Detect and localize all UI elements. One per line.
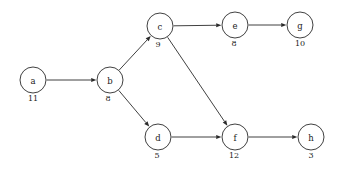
- node-label-a: a: [30, 76, 35, 86]
- graph-node-h[interactable]: h3: [298, 124, 324, 160]
- node-weight-f: 12: [229, 151, 239, 160]
- edge-c-e: [174, 23, 222, 27]
- node-label-b: b: [107, 76, 113, 86]
- edge-f-h: [249, 135, 298, 139]
- node-weight-g: 10: [295, 39, 305, 48]
- edge-c-f: [168, 37, 228, 125]
- node-weight-d: 5: [154, 151, 159, 160]
- edge-b-d: [119, 90, 149, 126]
- arrowhead-icon: [216, 23, 221, 27]
- graph-node-d[interactable]: d5: [145, 124, 171, 160]
- node-label-c: c: [158, 22, 163, 32]
- edge-d-f: [172, 135, 222, 139]
- node-label-h: h: [308, 133, 314, 143]
- edges-layer: [47, 23, 298, 139]
- node-label-e: e: [232, 21, 237, 31]
- nodes-layer: a11b8c9d5e8f12g10h3: [20, 12, 324, 160]
- node-weight-e: 8: [231, 39, 236, 48]
- arrowhead-icon: [91, 78, 96, 82]
- arrowhead-icon: [223, 120, 228, 125]
- edge-b-c: [119, 36, 151, 70]
- node-weight-c: 9: [155, 40, 160, 49]
- graph-node-e[interactable]: e8: [222, 12, 248, 48]
- graph-node-c[interactable]: c9: [147, 13, 173, 49]
- graph-node-b[interactable]: b8: [97, 67, 123, 103]
- edge-e-g: [249, 23, 287, 27]
- arrowhead-icon: [292, 135, 297, 139]
- graph-diagram: a11b8c9d5e8f12g10h3: [0, 0, 342, 173]
- node-label-d: d: [155, 133, 161, 143]
- graph-canvas: a11b8c9d5e8f12g10h3: [0, 0, 342, 173]
- node-weight-h: 3: [308, 151, 313, 160]
- graph-node-a[interactable]: a11: [20, 67, 46, 103]
- arrowhead-icon: [281, 23, 286, 27]
- arrowhead-icon: [216, 135, 221, 139]
- graph-node-g[interactable]: g10: [287, 12, 313, 48]
- graph-node-f[interactable]: f12: [222, 124, 248, 160]
- edge-a-b: [47, 78, 97, 82]
- node-label-g: g: [297, 21, 303, 31]
- node-weight-a: 11: [28, 94, 38, 103]
- node-weight-b: 8: [105, 94, 110, 103]
